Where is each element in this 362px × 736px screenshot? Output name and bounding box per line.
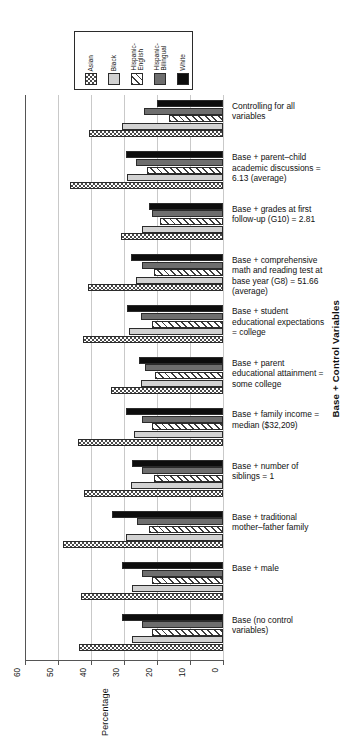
bar-group bbox=[25, 408, 223, 445]
legend-item-label: Asian bbox=[87, 55, 94, 72]
bar bbox=[149, 203, 223, 210]
category-label: Base (no control variables) bbox=[232, 615, 358, 636]
category-label: Base + student educational expectations … bbox=[232, 306, 358, 337]
legend-item-label: Black bbox=[110, 55, 117, 71]
bar bbox=[134, 431, 223, 438]
category-label: Base + traditional mother–father family bbox=[232, 512, 358, 533]
bar bbox=[141, 313, 224, 320]
legend-item: Hispanic- English bbox=[126, 43, 148, 85]
category-label: Base + parent–child academic discussions… bbox=[232, 152, 358, 183]
bar bbox=[127, 305, 223, 312]
category-label: Base + parent educational attainment = s… bbox=[232, 358, 358, 389]
x-axis-tick-label: 20 bbox=[145, 668, 169, 677]
legend-item-label: White bbox=[179, 54, 186, 71]
bar bbox=[70, 182, 223, 189]
bar bbox=[152, 577, 223, 584]
category-label: Base + male bbox=[232, 563, 358, 573]
bar bbox=[132, 636, 223, 643]
x-axis-tick bbox=[157, 660, 158, 665]
bar bbox=[137, 518, 223, 525]
legend-item: Black bbox=[103, 55, 125, 85]
bar-group bbox=[25, 614, 223, 651]
bar bbox=[132, 585, 223, 592]
bar bbox=[126, 408, 223, 415]
bar-group bbox=[25, 100, 223, 137]
bar-group bbox=[25, 562, 223, 599]
bar bbox=[78, 439, 223, 446]
x-axis-tick-label: 30 bbox=[112, 668, 136, 677]
bar bbox=[127, 174, 223, 181]
bar bbox=[142, 226, 223, 233]
legend-item-label: Hispanic- English bbox=[130, 43, 144, 71]
bar bbox=[145, 364, 223, 371]
dark-gray-swatch bbox=[154, 73, 166, 85]
x-axis-tick-label: 40 bbox=[79, 668, 103, 677]
x-axis-tick-label: 0 bbox=[211, 668, 235, 673]
bar bbox=[157, 100, 223, 107]
legend-item: Asian bbox=[80, 55, 102, 86]
y-axis-line bbox=[25, 95, 26, 661]
bar bbox=[152, 210, 223, 217]
bar bbox=[121, 233, 223, 240]
bar bbox=[81, 593, 223, 600]
light-gray-swatch bbox=[108, 73, 120, 85]
legend-item: White bbox=[172, 54, 194, 85]
legend-item-label: Hispanic- Bilingual bbox=[153, 43, 167, 71]
bar bbox=[129, 328, 223, 335]
x-axis-tick-label: 10 bbox=[178, 668, 202, 677]
category-label: Controlling for all variables bbox=[232, 101, 358, 122]
bar bbox=[132, 460, 223, 467]
bar bbox=[142, 262, 223, 269]
bar bbox=[142, 570, 223, 577]
chart-legend: AsianBlackHispanic- EnglishHispanic- Bil… bbox=[74, 31, 193, 90]
x-axis-tick-label: 50 bbox=[46, 668, 70, 677]
bar bbox=[142, 416, 223, 423]
bar-group bbox=[25, 254, 223, 291]
x-axis-tick bbox=[58, 660, 59, 665]
bar bbox=[136, 277, 223, 284]
bar bbox=[160, 218, 223, 225]
bar bbox=[144, 108, 223, 115]
x-axis-tick-label: 60 bbox=[13, 668, 37, 677]
bar-group bbox=[25, 460, 223, 497]
bar bbox=[88, 284, 223, 291]
x-axis-tick bbox=[124, 660, 125, 665]
bar bbox=[84, 490, 223, 497]
bar bbox=[126, 534, 223, 541]
bar-group bbox=[25, 357, 223, 394]
bar bbox=[122, 123, 223, 130]
bar bbox=[154, 269, 223, 276]
bar bbox=[149, 526, 223, 533]
bar bbox=[141, 380, 224, 387]
bar-group bbox=[25, 511, 223, 548]
bar bbox=[83, 336, 223, 343]
bar bbox=[131, 482, 223, 489]
x-axis-tick bbox=[223, 660, 224, 665]
bar bbox=[152, 629, 223, 636]
x-axis-tick bbox=[91, 660, 92, 665]
bar bbox=[63, 541, 223, 548]
bar-group bbox=[25, 151, 223, 188]
x-axis-tick bbox=[190, 660, 191, 665]
bar bbox=[147, 167, 223, 174]
bar bbox=[139, 357, 223, 364]
bar bbox=[126, 151, 223, 158]
diagonal-stripes-swatch bbox=[131, 73, 143, 85]
bar bbox=[169, 115, 223, 122]
x-axis-title: Percentage bbox=[100, 688, 150, 736]
category-label: Base + grades at first follow-up (G10) =… bbox=[232, 204, 358, 225]
bar bbox=[122, 614, 223, 621]
bar bbox=[112, 511, 223, 518]
bar bbox=[142, 467, 223, 474]
black-swatch bbox=[177, 73, 189, 85]
bar bbox=[155, 372, 223, 379]
plot-area bbox=[25, 95, 223, 660]
bar bbox=[154, 475, 223, 482]
bar bbox=[136, 159, 223, 166]
category-label: Base + comprehensive math and reading te… bbox=[232, 255, 358, 297]
bar bbox=[142, 621, 223, 628]
bar bbox=[152, 321, 223, 328]
bar-group bbox=[25, 203, 223, 240]
category-label: Base + number of siblings = 1 bbox=[232, 461, 358, 482]
gridline bbox=[223, 95, 224, 660]
